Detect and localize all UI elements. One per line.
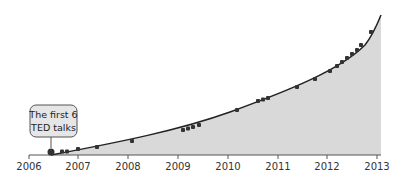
- data-point: [235, 108, 239, 112]
- tick-label-2009: 2009: [165, 161, 190, 172]
- data-point: [313, 77, 317, 81]
- data-point: [369, 30, 373, 34]
- data-point: [186, 127, 190, 131]
- tick-label-2010: 2010: [215, 161, 240, 172]
- data-point: [256, 99, 260, 103]
- data-point: [191, 125, 195, 129]
- data-point: [197, 123, 201, 127]
- data-point: [266, 96, 270, 100]
- tick-label-2012: 2012: [314, 161, 339, 172]
- area-under-curve: [51, 15, 381, 155]
- data-point: [65, 150, 69, 154]
- data-point: [95, 145, 99, 149]
- callout-line-1: The first 6: [28, 109, 77, 120]
- tick-label-2011: 2011: [265, 161, 290, 172]
- data-point: [60, 150, 64, 154]
- data-point: [48, 149, 55, 156]
- data-point: [130, 139, 134, 143]
- tick-label-2008: 2008: [115, 161, 140, 172]
- callout-line-2: TED talks: [30, 122, 76, 133]
- data-point: [350, 52, 354, 56]
- data-point: [295, 85, 299, 89]
- data-point: [340, 60, 344, 64]
- data-point: [359, 43, 363, 47]
- tick-label-2007: 2007: [65, 161, 90, 172]
- tick-label-2013: 2013: [364, 161, 389, 172]
- growth-chart: 2006 2007 2008 2009 2010 2011 2012 2013: [0, 0, 405, 185]
- x-axis-ticks: [29, 155, 377, 159]
- data-point: [345, 56, 349, 60]
- x-axis-labels: 2006 2007 2008 2009 2010 2011 2012 2013: [16, 161, 389, 172]
- tick-label-2006: 2006: [16, 161, 41, 172]
- data-point: [181, 128, 185, 132]
- data-point: [76, 147, 80, 151]
- data-point: [328, 69, 332, 73]
- data-point: [355, 48, 359, 52]
- data-point: [261, 98, 265, 102]
- data-point: [335, 64, 339, 68]
- callout-first-six-talks: The first 6 TED talks: [28, 105, 77, 148]
